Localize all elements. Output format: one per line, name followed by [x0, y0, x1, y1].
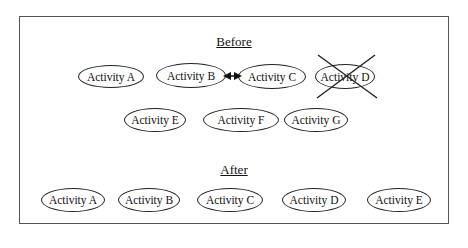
after-activity-d: Activity D	[282, 188, 346, 212]
after-activity-e: Activity E	[367, 188, 431, 212]
after-activity-a: Activity A	[41, 188, 105, 212]
after-activity-b: Activity B	[118, 188, 180, 212]
after-title: After	[220, 162, 247, 178]
after-activity-c: Activity C	[197, 188, 263, 212]
bidirectional-arrow-icon	[223, 72, 242, 80]
before-after-diagram: Before Activity A Activity B Activity C …	[0, 0, 468, 248]
cross-out-icon	[317, 55, 377, 98]
